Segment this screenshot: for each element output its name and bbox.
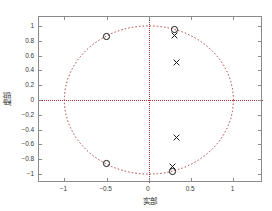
y-tick-right	[258, 85, 261, 86]
y-tick	[39, 130, 42, 131]
y-tick-right	[258, 56, 261, 57]
y-tick-label: −0.6	[0, 140, 34, 147]
y-tick	[39, 144, 42, 145]
y-tick-right	[258, 174, 261, 175]
x-tick	[149, 178, 150, 181]
y-tick-right	[258, 144, 261, 145]
pole-marker	[171, 57, 182, 68]
zero-marker	[169, 24, 180, 35]
pole-marker	[169, 30, 180, 41]
pole-marker	[167, 161, 178, 172]
x-tick-label: −1	[60, 185, 67, 192]
y-tick-label: 0.8	[0, 36, 34, 43]
imag-axis-guide	[149, 17, 150, 183]
x-tick-top	[191, 17, 192, 20]
y-tick	[39, 85, 42, 86]
x-tick	[64, 178, 65, 181]
y-tick	[39, 70, 42, 71]
y-tick-right	[258, 70, 261, 71]
y-tick	[39, 174, 42, 175]
y-tick	[39, 26, 42, 27]
pole-zero-figure: −1−0.500.5110.80.60.40.20−0.2−0.4−0.6−0.…	[0, 0, 272, 211]
x-tick	[107, 178, 108, 181]
x-tick-label: 0	[146, 185, 150, 192]
zero-marker	[167, 166, 178, 177]
x-tick-label: 0.5	[186, 185, 195, 192]
x-tick-label: −0.5	[99, 185, 111, 192]
zero-marker	[101, 31, 112, 42]
y-tick-right	[258, 130, 261, 131]
y-tick	[39, 159, 42, 160]
y-tick-label: −0.8	[0, 155, 34, 162]
real-axis-guide	[39, 100, 263, 101]
y-tick-label: 0.4	[0, 66, 34, 73]
x-tick	[191, 178, 192, 181]
y-tick-label: −1	[0, 170, 34, 177]
y-axis-label: 虚部	[1, 92, 12, 106]
zero-marker	[101, 158, 112, 169]
y-tick-label: −0.2	[0, 110, 34, 117]
x-tick	[233, 178, 234, 181]
y-tick	[39, 100, 42, 101]
y-tick-right	[258, 115, 261, 116]
x-tick-top	[64, 17, 65, 20]
x-tick-label: 1	[231, 185, 235, 192]
y-tick-label: 1	[0, 21, 34, 28]
pole-marker	[171, 132, 182, 143]
y-tick-right	[258, 100, 261, 101]
y-tick-label: 0.6	[0, 51, 34, 58]
x-tick-top	[149, 17, 150, 20]
x-tick-top	[107, 17, 108, 20]
x-tick-top	[233, 17, 234, 20]
y-tick-right	[258, 41, 261, 42]
plot-area	[38, 16, 262, 182]
y-tick-right	[258, 159, 261, 160]
y-tick-label: −0.4	[0, 125, 34, 132]
y-tick	[39, 41, 42, 42]
x-axis-label: 实部	[143, 195, 157, 206]
y-tick	[39, 56, 42, 57]
y-tick-right	[258, 26, 261, 27]
y-tick	[39, 115, 42, 116]
y-tick-label: 0.2	[0, 81, 34, 88]
